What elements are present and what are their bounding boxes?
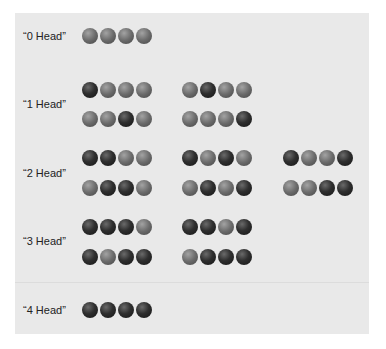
tail-ball-icon [301, 150, 317, 166]
tail-ball-icon [82, 111, 98, 127]
head-ball-icon [118, 302, 134, 318]
section-label: “4 Head” [23, 304, 66, 316]
head-ball-icon [200, 219, 216, 235]
outcome-group [182, 219, 252, 235]
tail-ball-icon [182, 249, 198, 265]
outcome-group [182, 249, 252, 265]
head-ball-icon [82, 150, 98, 166]
head-ball-icon [200, 82, 216, 98]
outcome-group [82, 302, 152, 318]
head-ball-icon [100, 150, 116, 166]
tail-ball-icon [100, 249, 116, 265]
tail-ball-icon [218, 82, 234, 98]
head-ball-icon [319, 180, 335, 196]
outcome-group [182, 82, 252, 98]
tail-ball-icon [100, 82, 116, 98]
section-separator [15, 282, 369, 283]
head-ball-icon [236, 249, 252, 265]
tail-ball-icon [136, 82, 152, 98]
outcome-group [182, 180, 252, 196]
outcome-group [82, 219, 152, 235]
head-ball-icon [136, 249, 152, 265]
section-label: “2 Head” [23, 167, 66, 179]
tail-ball-icon [319, 150, 335, 166]
tail-ball-icon [136, 180, 152, 196]
outcome-group [82, 28, 152, 44]
outcome-group [283, 150, 353, 166]
tail-ball-icon [182, 82, 198, 98]
head-ball-icon [182, 219, 198, 235]
head-ball-icon [283, 150, 299, 166]
tail-ball-icon [182, 111, 198, 127]
head-ball-icon [100, 180, 116, 196]
head-ball-icon [236, 219, 252, 235]
outcome-group [182, 111, 252, 127]
tail-ball-icon [218, 111, 234, 127]
tail-ball-icon [218, 219, 234, 235]
tail-ball-icon [118, 28, 134, 44]
head-ball-icon [118, 111, 134, 127]
outcome-group [283, 180, 353, 196]
tail-ball-icon [100, 111, 116, 127]
head-ball-icon [100, 302, 116, 318]
head-ball-icon [118, 249, 134, 265]
tail-ball-icon [301, 180, 317, 196]
tail-ball-icon [118, 150, 134, 166]
tail-ball-icon [182, 180, 198, 196]
tail-ball-icon [236, 150, 252, 166]
outcome-group [82, 150, 152, 166]
tail-ball-icon [82, 28, 98, 44]
tail-ball-icon [218, 180, 234, 196]
outcome-group [82, 249, 152, 265]
tail-ball-icon [136, 150, 152, 166]
section-label: “3 Head” [23, 235, 66, 247]
diagram-panel [15, 13, 369, 334]
tail-ball-icon [118, 82, 134, 98]
tail-ball-icon [236, 82, 252, 98]
head-ball-icon [236, 180, 252, 196]
outcome-group [82, 111, 152, 127]
head-ball-icon [200, 249, 216, 265]
section-label: “1 Head” [23, 98, 66, 110]
tail-ball-icon [100, 28, 116, 44]
head-ball-icon [118, 219, 134, 235]
tail-ball-icon [136, 219, 152, 235]
head-ball-icon [82, 302, 98, 318]
head-ball-icon [337, 150, 353, 166]
head-ball-icon [218, 150, 234, 166]
tail-ball-icon [136, 28, 152, 44]
head-ball-icon [236, 111, 252, 127]
head-ball-icon [136, 302, 152, 318]
tail-ball-icon [283, 180, 299, 196]
head-ball-icon [82, 249, 98, 265]
head-ball-icon [182, 150, 198, 166]
head-ball-icon [200, 180, 216, 196]
tail-ball-icon [200, 150, 216, 166]
head-ball-icon [218, 249, 234, 265]
tail-ball-icon [200, 111, 216, 127]
outcome-group [182, 150, 252, 166]
head-ball-icon [118, 180, 134, 196]
section-label: “0 Head” [23, 30, 66, 42]
head-ball-icon [100, 219, 116, 235]
outcome-group [82, 82, 152, 98]
head-ball-icon [82, 219, 98, 235]
outcome-group [82, 180, 152, 196]
head-ball-icon [337, 180, 353, 196]
tail-ball-icon [136, 111, 152, 127]
head-ball-icon [82, 82, 98, 98]
tail-ball-icon [82, 180, 98, 196]
